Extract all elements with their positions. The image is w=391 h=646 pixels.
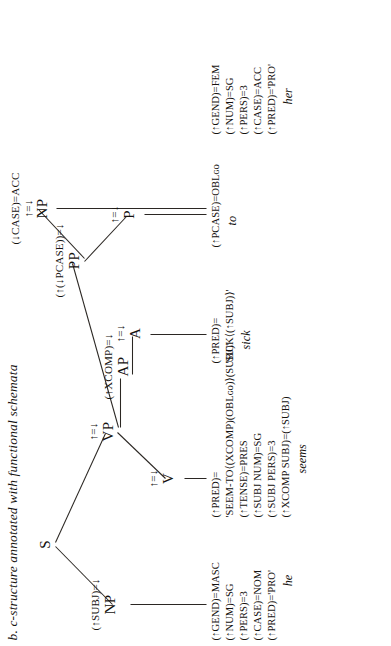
c-structure-figure: b. c-structure annotated with functional… [0,0,391,646]
terminal-word-he: he [279,520,295,640]
lexical-entry-seems: (↑PRED)= 'SEEM-TO⟨(XCOMP)(OBLɢᴏ)⟩(SUBJ)'… [208,341,309,517]
tree-branch-lines [0,0,391,646]
node-pp-label: PP [65,223,82,297]
feature-he-4: (↑PRED)='PRO' [264,520,278,640]
node-vp-schema: ↑=↓ [86,421,99,441]
feature-he-1: (↑NUM)=SG [222,520,236,640]
terminal-word-to: to [223,143,239,225]
terminal-word-seems: seems [293,341,309,473]
feature-seems-0: (↑PRED)= [208,341,222,517]
feature-seems-2: (↑TENSE)=PRES [236,341,250,517]
node-s-label: S [36,540,53,549]
node-v-label: V [159,469,176,487]
node-ap-schema: (↑XCOMP)=↓ [101,333,114,399]
feature-her-4: (↑PRED)='PRO' [264,16,278,134]
feature-sick-0: (↑PRED)= [208,253,222,363]
node-v[interactable]: ↑=↓ V [146,469,175,487]
figure-caption: b. c-structure annotated with functional… [4,364,20,640]
node-p-label: P [120,205,137,223]
node-a[interactable]: ↑=↓ A [113,324,142,342]
lexical-entry-sick: (↑PRED)= 'SICK⟨(↑SUBJ)⟩' sick [208,253,253,363]
lexical-entry-her: (↑GEND)=FEM (↑NUM)=SG (↑PERS)=3 (↑CASE)=… [208,16,295,134]
feature-seems-4: (↑SUBJ PERS)=3 [264,341,278,517]
node-a-schema: ↑=↓ [113,324,126,342]
feature-her-0: (↑GEND)=FEM [208,16,222,134]
node-ap-label: AP [114,333,131,399]
feature-her-3: (↑CASE)=ACC [250,16,264,134]
feature-her-2: (↑PERS)=3 [236,16,250,134]
node-np-subject[interactable]: (↑SUBJ)=↓ NP [88,578,117,630]
rotated-figure-wrapper: b. c-structure annotated with functional… [0,0,391,646]
node-vp-label: VP [99,421,116,441]
node-a-label: A [126,324,143,342]
feature-seems-5: (↑XCOMP SUBJ)=(↑SUBJ) [278,341,292,517]
feature-he-2: (↑PERS)=3 [236,520,250,640]
node-np-object[interactable]: (↓CASE)=ACC ↑=↓ NP [8,172,50,244]
feature-seems-1: 'SEEM-TO⟨(XCOMP)(OBLɢᴏ)⟩(SUBJ)' [222,341,236,517]
node-np-subject-label: NP [101,578,118,630]
node-pp[interactable]: (↑(↓PCASE))=↓ PP [52,223,81,297]
node-v-schema: ↑=↓ [146,469,159,487]
feature-he-0: (↑GEND)=MASC [208,520,222,640]
branch-s-vp [55,433,105,542]
feature-sick-1: 'SICK⟨(↑SUBJ)⟩' [222,253,236,363]
lexical-entry-he: (↑GEND)=MASC (↑NUM)=SG (↑PERS)=3 (↑CASE)… [208,520,295,640]
feature-he-3: (↑CASE)=NOM [250,520,264,640]
node-np-object-case-schema: (↓CASE)=ACC [8,172,21,244]
node-p[interactable]: ↑=↓ P [107,205,136,223]
node-pp-schema: (↑(↓PCASE))=↓ [52,223,65,297]
node-np-subject-schema: (↑SUBJ)=↓ [88,578,101,630]
node-np-object-label: NP [33,172,50,244]
node-ap[interactable]: (↑XCOMP)=↓ AP [101,333,130,399]
feature-to-0: (↑PCASE)=OBLɢᴏ [208,143,222,247]
lexical-entry-to: (↑PCASE)=OBLɢᴏ to [208,143,239,247]
feature-her-1: (↑NUM)=SG [222,16,236,134]
node-p-schema: ↑=↓ [107,205,120,223]
node-vp[interactable]: ↑=↓ VP [86,421,115,441]
node-s[interactable]: S [36,540,53,549]
terminal-word-her: her [279,16,295,104]
terminal-word-sick: sick [237,253,253,349]
node-np-object-schema: ↑=↓ [21,172,34,244]
feature-seems-3: (↑SUBJ NUM)=SG [250,341,264,517]
